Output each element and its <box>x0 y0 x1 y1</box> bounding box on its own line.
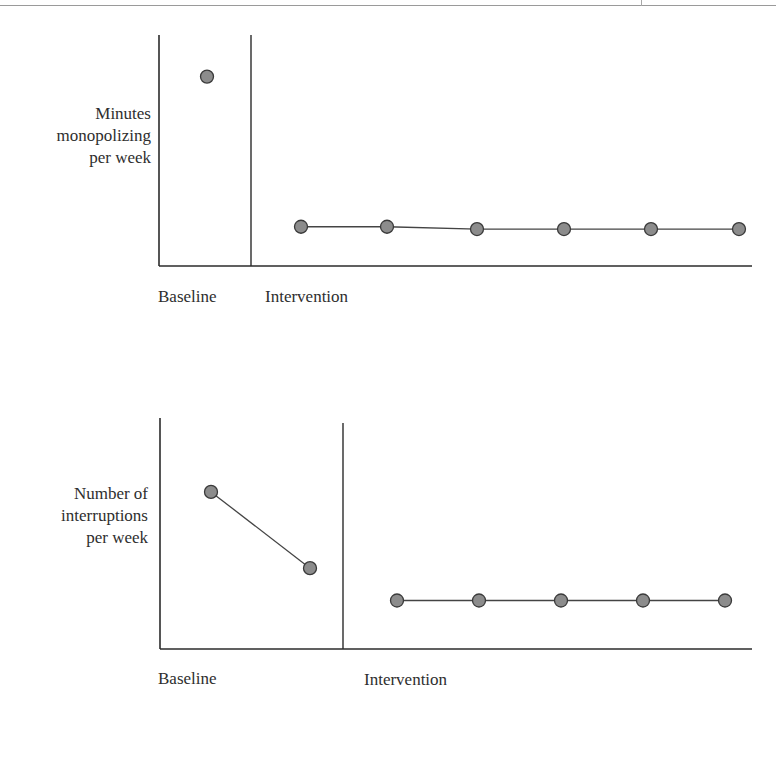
data-point-marker <box>304 562 317 575</box>
figure-page: Minutes monopolizing per week Baseline I… <box>0 0 776 761</box>
chart1-plot <box>0 0 776 300</box>
phase-intervention-line <box>301 227 739 229</box>
data-point-marker <box>645 223 658 236</box>
chart2-intervention-label: Intervention <box>364 670 447 690</box>
data-point-marker <box>391 594 404 607</box>
chart2-plot <box>0 400 776 700</box>
data-point-marker <box>471 223 484 236</box>
data-point-marker <box>558 223 571 236</box>
chart1-intervention-label: Intervention <box>265 287 348 307</box>
data-point-marker <box>473 594 486 607</box>
data-point-marker <box>295 220 308 233</box>
phase-baseline-line <box>211 492 310 568</box>
data-point-marker <box>733 223 746 236</box>
data-point-marker <box>205 485 218 498</box>
data-point-marker <box>719 594 732 607</box>
data-point-marker <box>381 220 394 233</box>
data-point-marker <box>201 70 214 83</box>
data-point-marker <box>637 594 650 607</box>
chart1-baseline-label: Baseline <box>158 287 217 307</box>
chart2-baseline-label: Baseline <box>158 669 217 689</box>
data-point-marker <box>555 594 568 607</box>
